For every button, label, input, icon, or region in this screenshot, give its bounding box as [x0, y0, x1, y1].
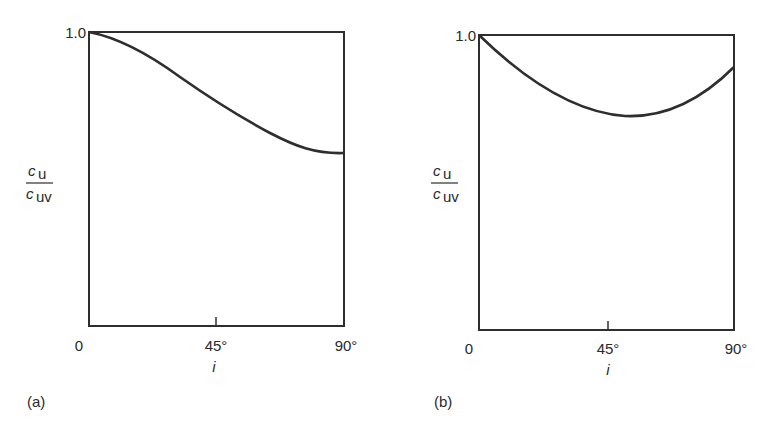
panel-label-b: (b) [434, 393, 452, 410]
x-tick-0-b: 0 [465, 340, 473, 357]
y-label-den-b: c [433, 185, 441, 202]
y-label-num-sub-b: u [443, 165, 451, 182]
figure: 1.0 0 45° 90° i c u c uv (a) 1.0 0 45° 9… [0, 0, 761, 438]
y-label-den-sub-b: uv [443, 188, 459, 205]
panel-a: 1.0 0 45° 90° i c u c uv (a) [26, 24, 357, 410]
x-axis-label-a: i [212, 358, 216, 375]
y-label-num-b: c [433, 162, 441, 179]
y-axis-label-a: c u c uv [26, 162, 53, 205]
panel-b: 1.0 0 45° 90° i c u c uv (b) [431, 27, 747, 410]
y-tick-1-b: 1.0 [455, 27, 476, 44]
y-label-num-a: c [28, 162, 36, 179]
x-tick-45-b: 45° [597, 340, 620, 357]
panel-label-a: (a) [27, 393, 45, 410]
y-label-num-sub-a: u [38, 165, 46, 182]
y-axis-label-b: c u c uv [431, 162, 459, 205]
x-axis-label-b: i [606, 361, 610, 378]
x-tick-0-a: 0 [75, 337, 83, 354]
x-tick-90-a: 90° [335, 337, 358, 354]
curve-b [479, 35, 734, 116]
x-tick-45-a: 45° [205, 337, 228, 354]
y-label-den-sub-a: uv [36, 188, 52, 205]
plot-frame-b [479, 35, 734, 330]
y-tick-1-a: 1.0 [65, 24, 86, 41]
y-label-den-a: c [26, 185, 34, 202]
curve-a [89, 32, 344, 153]
plot-frame-a [89, 32, 344, 326]
x-tick-90-b: 90° [725, 340, 748, 357]
